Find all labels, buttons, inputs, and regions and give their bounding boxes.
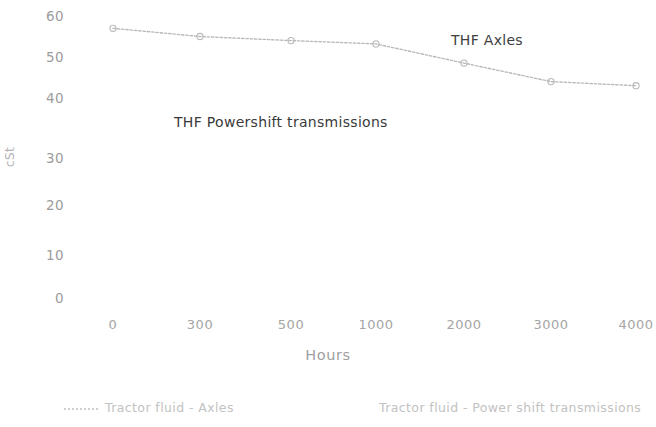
chart-container: cSt 60 50 40 30 20 10 0 THF Axles THF Po… (0, 0, 656, 427)
legend-label: Tractor fluid - Axles (105, 402, 234, 415)
legend-blank-swatch-icon (338, 403, 372, 413)
x-axis-tick: 1000 (358, 318, 393, 331)
x-axis-tick: 4000 (618, 318, 653, 331)
legend-line-swatch-icon (64, 403, 98, 413)
x-axis-tick: 300 (187, 318, 213, 331)
series-line-axles (113, 28, 636, 85)
x-axis-tick-labels: 0 300 500 1000 2000 3000 4000 (0, 318, 656, 338)
legend-label: Tractor fluid - Power shift transmission… (379, 402, 641, 415)
series-axles (110, 25, 639, 89)
x-axis-tick: 0 (109, 318, 118, 331)
annotation-thf-axles: THF Axles (451, 33, 523, 47)
series-markers-axles (110, 25, 639, 89)
x-axis-tick: 500 (278, 318, 304, 331)
chart-legend: Tractor fluid - Axles Tractor fluid - Po… (0, 402, 656, 424)
legend-item-axles[interactable]: Tractor fluid - Axles (64, 402, 234, 415)
annotation-thf-powershift: THF Powershift transmissions (174, 115, 388, 129)
x-axis-title: Hours (0, 347, 656, 363)
x-axis-tick: 2000 (446, 318, 481, 331)
x-axis-tick: 3000 (533, 318, 568, 331)
legend-item-powershift[interactable]: Tractor fluid - Power shift transmission… (338, 402, 641, 415)
